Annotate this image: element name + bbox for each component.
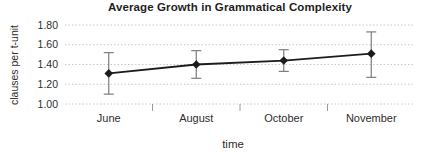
y-tick-label: 1.40 [38,58,59,70]
y-tick-label: 1.80 [38,19,59,31]
x-category-label: June [97,112,121,124]
y-tick-label: 1.00 [38,98,59,110]
growth-chart: Average Growth in Grammatical Complexity… [0,0,426,157]
y-tick-label: 1.60 [38,38,59,50]
x-category-label: October [264,112,303,124]
x-axis-label: time [40,138,426,150]
x-category-label: August [179,112,213,124]
data-point-marker [104,69,113,78]
plot-area: 1.801.601.401.201.00JuneAugustOctoberNov… [0,0,426,157]
data-point-marker [279,56,288,65]
data-point-marker [367,49,376,58]
x-category-label: November [346,112,397,124]
data-point-marker [192,60,201,69]
y-tick-label: 1.20 [38,78,59,90]
trend-line [109,54,372,74]
